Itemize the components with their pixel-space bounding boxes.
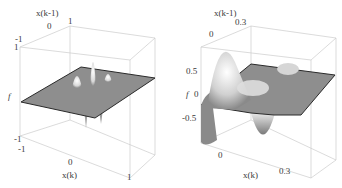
- surface-dip: [237, 80, 269, 96]
- x-axis-label: x(k): [243, 170, 258, 180]
- y-axis-label: x(k-1): [214, 8, 237, 18]
- y-tick-pos: 0.3: [235, 17, 246, 27]
- surface-plane: [21, 67, 155, 118]
- y-tick-zero: 0: [209, 29, 214, 39]
- z-tick-mid: 0: [194, 89, 199, 99]
- x-tick-neg: -1: [18, 144, 26, 154]
- z-tick-bottom: -1: [14, 134, 22, 144]
- x-tick-zero: 0: [68, 157, 73, 167]
- x-tick-pos: 0.3: [279, 166, 290, 176]
- surface-plot-right: x(k-1) 0.3 0 0.5 f 0 -0.5 0 x(k) 0.3: [171, 0, 342, 188]
- x-tick-pos: 1: [127, 172, 132, 182]
- z-tick-top: 0.5: [186, 66, 197, 76]
- surface-plot-left-graphic: [0, 0, 171, 188]
- z-tick-top: 1: [14, 42, 19, 52]
- y-tick-pos: 1: [68, 16, 73, 26]
- z-axis-label: f: [8, 91, 11, 101]
- x-tick-zero: 0: [218, 150, 223, 160]
- surface-trough: [251, 113, 275, 135]
- y-tick-zero: 0: [47, 21, 52, 31]
- y-axis-label: x(k-1): [36, 8, 59, 18]
- z-tick-bottom: -0.5: [182, 113, 196, 123]
- surface-plot-left: x(k-1) 0 1 -1 1 f -1 -1 0 x(k) 1: [0, 0, 171, 188]
- surface-peak-rear: [277, 63, 299, 75]
- z-axis-label: f: [186, 89, 189, 99]
- x-axis-label: x(k): [62, 170, 77, 180]
